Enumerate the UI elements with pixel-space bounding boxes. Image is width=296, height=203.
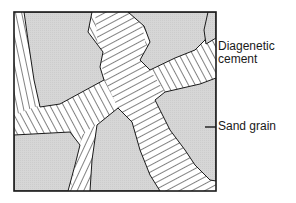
label-diagenetic-cement: Diagenetic cement	[218, 40, 275, 66]
sand-grain-bottom-left	[14, 132, 80, 191]
label-sand-grain: Sand grain	[218, 120, 276, 133]
petrography-diagram	[0, 0, 296, 203]
label-cement-line2: cement	[218, 53, 275, 66]
